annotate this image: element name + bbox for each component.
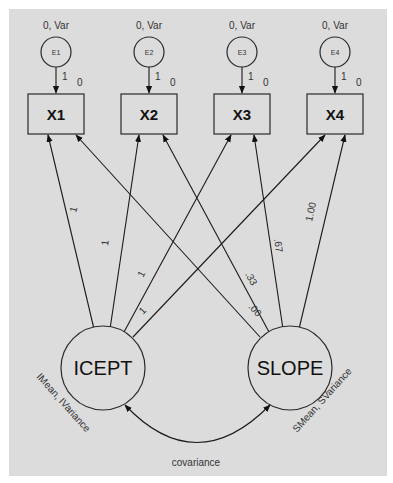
intercept-X1: 0 [77,77,83,88]
error-param-E4: 0, Var [322,20,349,31]
error-loading-E3: 1 [248,71,254,82]
latent-label-ICEPT: ICEPT [74,357,133,379]
error-param-E2: 0, Var [136,20,163,31]
observed-X4[interactable]: X4 [307,94,363,134]
observed-X1[interactable]: X1 [28,94,84,134]
observed-label-X3: X3 [233,106,251,123]
error-label-E4: E4 [331,49,340,56]
observed-label-X4: X4 [326,106,345,123]
error-loading-E4: 1 [341,71,347,82]
error-label-E1: E1 [52,49,61,56]
observed-X3[interactable]: X3 [214,94,270,134]
error-loading-E2: 1 [155,71,161,82]
observed-label-X2: X2 [140,106,158,123]
intercept-X2: 0 [170,77,176,88]
sem-diagram: 0, Var E1 1 0 0, Var E2 1 0 0, Var E3 1 … [0,0,393,483]
error-label-E2: E2 [145,49,154,56]
latent-label-SLOPE: SLOPE [257,357,324,379]
error-param-E1: 0, Var [43,20,70,31]
observed-label-X1: X1 [47,106,65,123]
error-loading-E1: 1 [62,71,68,82]
intercept-X3: 0 [263,77,269,88]
intercept-X4: 0 [356,77,362,88]
error-param-E3: 0, Var [229,20,256,31]
covariance-label: covariance [172,457,221,468]
weight-slope-x3: .67 [272,238,285,254]
observed-X2[interactable]: X2 [121,94,177,134]
error-label-E3: E3 [238,49,247,56]
